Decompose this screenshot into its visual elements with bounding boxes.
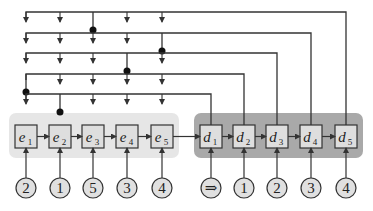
svg-text:4: 4 xyxy=(342,180,350,196)
svg-text:d: d xyxy=(203,129,211,145)
svg-text:4: 4 xyxy=(313,137,318,147)
svg-text:e: e xyxy=(19,129,26,145)
svg-text:e: e xyxy=(53,129,60,145)
svg-text:3: 3 xyxy=(279,137,284,147)
encoder-cell-4: e43 xyxy=(116,125,138,198)
decoder-input-4: 3 xyxy=(301,178,321,198)
svg-text:4: 4 xyxy=(158,180,166,196)
svg-text:5: 5 xyxy=(89,180,97,196)
encoder-input-4: 3 xyxy=(117,178,137,198)
svg-text:e: e xyxy=(86,129,93,145)
encoder-cell-3: e35 xyxy=(82,125,104,198)
svg-text:1: 1 xyxy=(28,137,33,147)
decoder-input-5: 4 xyxy=(336,178,356,198)
decoder-input-1: ⇒ xyxy=(201,178,221,198)
decoder-input-3: 2 xyxy=(267,178,287,198)
pointer-row xyxy=(26,33,311,125)
encoder-cell-1: e12 xyxy=(15,125,37,198)
svg-text:d: d xyxy=(303,129,311,145)
encoder-cell-5: e54 xyxy=(151,125,173,198)
svg-text:e: e xyxy=(120,129,127,145)
svg-text:⇒: ⇒ xyxy=(205,180,218,196)
svg-text:5: 5 xyxy=(348,137,353,147)
decoder-cell-2: d21 xyxy=(233,125,255,198)
decoder-cell-5: d54 xyxy=(335,125,357,198)
decoder-cell-1: d1⇒ xyxy=(200,125,222,198)
svg-text:e: e xyxy=(155,129,162,145)
encoder-input-3: 5 xyxy=(83,178,103,198)
svg-text:2: 2 xyxy=(22,180,30,196)
pointer-network-diagram: e12e21e35e43e54d1⇒d21d32d43d54 xyxy=(0,0,373,211)
svg-text:5: 5 xyxy=(164,137,169,147)
svg-text:4: 4 xyxy=(129,137,134,147)
encoder-input-5: 4 xyxy=(152,178,172,198)
svg-text:d: d xyxy=(236,129,244,145)
decoder-cell-4: d43 xyxy=(300,125,322,198)
encoder-input-1: 2 xyxy=(16,178,36,198)
svg-text:2: 2 xyxy=(246,137,251,147)
encoder-input-2: 1 xyxy=(50,178,70,198)
svg-text:3: 3 xyxy=(123,180,131,196)
svg-text:1: 1 xyxy=(56,180,64,196)
svg-text:3: 3 xyxy=(95,137,100,147)
decoder-cell-3: d32 xyxy=(266,125,288,198)
svg-text:3: 3 xyxy=(307,180,315,196)
svg-text:2: 2 xyxy=(273,180,281,196)
pointer-row xyxy=(26,12,346,125)
pointer-dot-icon xyxy=(57,109,64,116)
decoder-input-2: 1 xyxy=(234,178,254,198)
svg-text:1: 1 xyxy=(240,180,248,196)
svg-text:d: d xyxy=(269,129,277,145)
svg-text:2: 2 xyxy=(62,137,67,147)
svg-text:1: 1 xyxy=(213,137,218,147)
svg-text:d: d xyxy=(338,129,346,145)
encoder-cell-2: e21 xyxy=(49,125,71,198)
